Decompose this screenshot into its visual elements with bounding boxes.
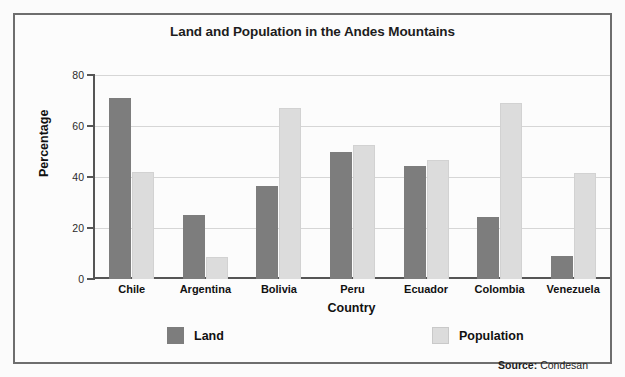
bar-argentina-population[interactable] xyxy=(206,257,228,279)
y-tick-mark-60 xyxy=(87,125,95,127)
plot-area: 020406080 ChileArgentinaBoliviaPeruEcuad… xyxy=(93,75,610,279)
source-label: Source: xyxy=(498,359,537,371)
y-tick-mark-80 xyxy=(87,74,95,76)
y-tick-label-80: 80 xyxy=(72,69,84,81)
bar-chile-land[interactable] xyxy=(109,98,131,279)
y-tick-label-60: 60 xyxy=(72,120,84,132)
chart-figure: Land and Population in the Andes Mountai… xyxy=(0,0,625,377)
x-tick-label-bolivia: Bolivia xyxy=(242,283,316,295)
bar-bolivia-population[interactable] xyxy=(279,108,301,279)
x-tick-label-chile: Chile xyxy=(95,283,169,295)
x-tick-label-peru: Peru xyxy=(316,283,390,295)
x-tick-label-ecuador: Ecuador xyxy=(389,283,463,295)
x-tick-label-argentina: Argentina xyxy=(169,283,243,295)
y-tick-label-0: 0 xyxy=(78,273,84,285)
bar-group-ecuador: Ecuador xyxy=(389,75,463,279)
chart-frame: Land and Population in the Andes Mountai… xyxy=(13,13,612,364)
bar-group-colombia: Colombia xyxy=(463,75,537,279)
bar-group-peru: Peru xyxy=(316,75,390,279)
bar-group-argentina: Argentina xyxy=(169,75,243,279)
bar-peru-land[interactable] xyxy=(330,152,352,280)
x-tick-label-venezuela: Venezuela xyxy=(536,283,610,295)
bar-venezuela-population[interactable] xyxy=(574,173,596,279)
bar-venezuela-land[interactable] xyxy=(551,256,573,279)
bar-colombia-land[interactable] xyxy=(477,217,499,279)
bar-group-venezuela: Venezuela xyxy=(536,75,610,279)
bar-chile-population[interactable] xyxy=(132,172,154,279)
bars-layer: ChileArgentinaBoliviaPeruEcuadorColombia… xyxy=(95,75,610,279)
y-axis-title: Percentage xyxy=(37,110,51,177)
chart-legend: LandPopulation xyxy=(93,327,610,349)
y-tick-mark-40 xyxy=(87,176,95,178)
legend-swatch-land xyxy=(167,327,184,344)
legend-swatch-population xyxy=(432,327,449,344)
chart-title: Land and Population in the Andes Mountai… xyxy=(15,24,610,39)
legend-item-land[interactable]: Land xyxy=(167,327,224,344)
bar-colombia-population[interactable] xyxy=(500,103,522,279)
y-tick-mark-20 xyxy=(87,227,95,229)
y-tick-mark-0 xyxy=(87,278,95,280)
bar-ecuador-population[interactable] xyxy=(427,160,449,279)
source-value: Condesan xyxy=(540,359,588,371)
bar-group-bolivia: Bolivia xyxy=(242,75,316,279)
y-tick-label-20: 20 xyxy=(72,222,84,234)
legend-item-population[interactable]: Population xyxy=(432,327,524,344)
x-axis-title: Country xyxy=(93,301,610,315)
x-tick-label-colombia: Colombia xyxy=(463,283,537,295)
y-tick-label-40: 40 xyxy=(72,171,84,183)
legend-label-population: Population xyxy=(459,329,524,343)
source-note: Source: Condesan xyxy=(498,359,588,371)
bar-ecuador-land[interactable] xyxy=(404,166,426,279)
bar-bolivia-land[interactable] xyxy=(256,186,278,279)
bar-argentina-land[interactable] xyxy=(183,215,205,279)
bar-group-chile: Chile xyxy=(95,75,169,279)
bar-peru-population[interactable] xyxy=(353,145,375,279)
legend-label-land: Land xyxy=(194,329,224,343)
